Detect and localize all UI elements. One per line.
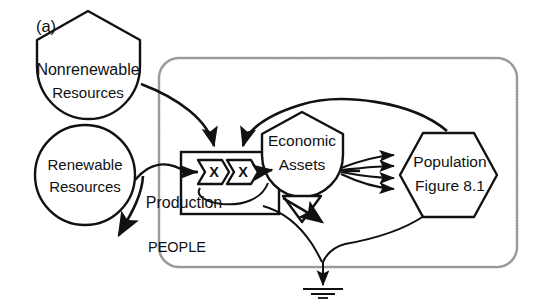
panel-label: (a) <box>36 17 56 35</box>
renewable-resources-shape <box>35 125 135 225</box>
economic-assets-shape <box>262 112 343 197</box>
nonrenewable-label-line2: Resources <box>52 84 124 101</box>
flow-assets-to-population-2 <box>341 166 394 170</box>
nonrenewable-label-line1: Nonrenewable <box>36 61 139 78</box>
population-label-line1: Population <box>413 153 486 170</box>
production-label: Production <box>146 194 223 211</box>
population-hexagon-shape <box>400 133 497 217</box>
multiplier-x2-label: X <box>238 164 248 180</box>
multiplier-x1-label: X <box>209 164 219 180</box>
economic-assets-label-line1: Economic <box>268 132 336 149</box>
ground-sink-icon <box>303 289 343 298</box>
population-label-line2: Figure 8.1 <box>415 177 485 194</box>
figure-canvas: (a) Nonrenewable Resources Renewable Res… <box>0 0 541 305</box>
renewable-label-line2: Resources <box>49 178 121 195</box>
renewable-label-line1: Renewable <box>47 156 122 173</box>
people-boundary-label: PEOPLE <box>148 239 206 255</box>
flow-nonrenewable-to-production <box>141 84 214 146</box>
flow-population-to-ground <box>323 216 424 285</box>
diagram-svg: (a) Nonrenewable Resources Renewable Res… <box>0 0 541 305</box>
economic-assets-label-line2: Assets <box>279 156 326 173</box>
